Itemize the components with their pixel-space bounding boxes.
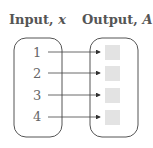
input-value: 3	[33, 88, 41, 103]
output-placeholder	[105, 66, 120, 81]
output-placeholder	[105, 110, 120, 125]
mapping-diagram: 1 2 3 4	[0, 0, 153, 148]
output-placeholder	[105, 45, 120, 60]
input-values: 1 2 3 4	[33, 45, 41, 124]
input-value: 4	[33, 109, 41, 124]
output-placeholders	[105, 45, 120, 125]
input-value: 2	[33, 66, 41, 81]
mapping-arrows	[48, 52, 100, 117]
output-placeholder	[105, 88, 120, 103]
input-value: 1	[33, 45, 41, 60]
